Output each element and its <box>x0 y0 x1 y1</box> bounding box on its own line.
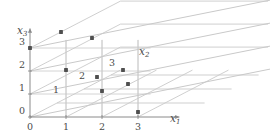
grid-lines-group <box>30 0 270 117</box>
lattice-point <box>28 46 32 50</box>
lattice-point <box>59 30 63 34</box>
x1-axis-label: x1 <box>170 112 180 126</box>
x1-tick-label: 1 <box>63 121 69 132</box>
grid-line-left-oblique <box>30 1 120 48</box>
lattice-point-marker <box>126 82 130 86</box>
lattice-diagram-canvas: x1x2x301230123123 <box>0 0 270 136</box>
lattice-point <box>90 36 94 40</box>
lattice-point-marker <box>121 68 125 72</box>
grid-line-left-oblique <box>30 24 120 71</box>
lattice-point <box>136 110 140 114</box>
lattice-point <box>121 68 125 72</box>
lattice-point <box>126 82 130 86</box>
axes-group <box>28 28 180 119</box>
grid-line-floor-oblique <box>138 70 228 117</box>
lattice-diagram-figure: x1x2x301230123123 <box>0 0 270 136</box>
x1-tick-label: 2 <box>99 121 105 132</box>
lattice-point-marker <box>90 36 94 40</box>
lattice-point-marker <box>100 89 104 93</box>
x3-axis-arrowhead <box>28 28 32 32</box>
lattice-point-marker <box>59 30 63 34</box>
lattice-point-marker <box>28 46 32 50</box>
x3-tick-label: 3 <box>19 36 25 47</box>
lattice-point-marker <box>95 75 99 79</box>
x2-tick-label: 1 <box>53 84 59 95</box>
x3-tick-label: 0 <box>19 105 25 116</box>
x2-tick-label: 2 <box>79 70 85 81</box>
lattice-point <box>64 68 68 72</box>
x3-tick-label: 2 <box>19 59 25 70</box>
x1-tick-label: 3 <box>135 121 141 132</box>
grid-line-floor-oblique <box>30 70 120 117</box>
x2-tick-label: 3 <box>109 57 115 68</box>
lattice-point <box>100 89 104 93</box>
x2-axis-label-subscript: 2 <box>144 51 150 59</box>
x1-tick-label: 0 <box>27 121 33 132</box>
x3-tick-label: 1 <box>19 82 25 93</box>
x1-axis-label-subscript: 1 <box>176 118 180 126</box>
lattice-point-marker <box>64 68 68 72</box>
lattice-point-marker <box>136 110 140 114</box>
grid-line-left-oblique <box>30 47 120 94</box>
lattice-point <box>95 75 99 79</box>
